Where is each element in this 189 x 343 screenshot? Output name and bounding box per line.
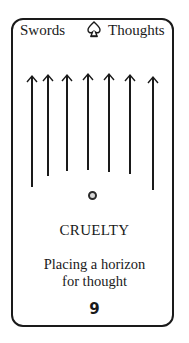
card-number: 9: [0, 300, 189, 318]
arrow-icon: [125, 75, 135, 174]
arrow-icon: [148, 77, 158, 190]
card-title: CRUELTY: [0, 222, 189, 239]
arrow-icon: [43, 75, 53, 176]
sword-arrows-illustration: [0, 0, 189, 343]
arrow-icon: [83, 74, 93, 170]
description-line-2: for thought: [0, 273, 189, 290]
circle-icon: [88, 191, 97, 200]
arrow-icon: [104, 74, 114, 172]
arrow-icon: [27, 76, 37, 187]
arrow-icon: [62, 75, 72, 171]
description-line-1: Placing a horizon: [0, 256, 189, 273]
card-description: Placing a horizon for thought: [0, 256, 189, 290]
